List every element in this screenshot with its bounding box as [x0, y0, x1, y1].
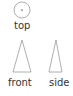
front-view-triangle-icon [13, 40, 31, 72]
top-view-circle-icon [14, 2, 30, 18]
side-view-triangle-icon [49, 40, 62, 72]
top-view-label: top [14, 20, 30, 32]
front-view-label: front [8, 77, 32, 89]
side-view-label: side [49, 77, 70, 89]
